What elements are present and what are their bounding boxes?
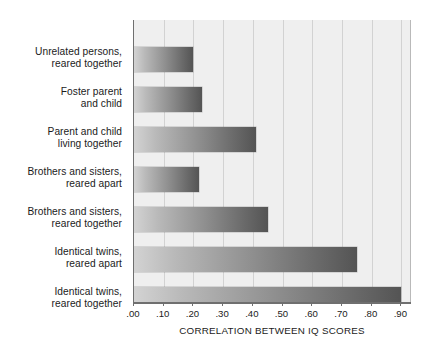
plot-right-edge xyxy=(410,20,411,302)
category-axis-labels: Unrelated persons, reared together Foste… xyxy=(0,20,128,302)
category-label-foster-parent-and-child: Foster parent and child xyxy=(0,86,122,111)
x-tick-label-0.00: .00 xyxy=(118,308,148,319)
x-tick-0.20 xyxy=(192,302,193,306)
category-label-line1: Brothers and sisters, xyxy=(28,206,122,217)
bar-identical-twins-reared-apart xyxy=(134,247,357,272)
x-tick-0.40 xyxy=(252,302,253,306)
category-label-identical-twins-reared-apart: Identical twins, reared apart xyxy=(0,246,122,271)
category-label-identical-twins-reared-together: Identical twins, reared together xyxy=(0,286,122,311)
x-tick-0.30 xyxy=(222,302,223,306)
category-label-line2: reared together xyxy=(0,298,122,310)
x-tick-label-0.20: .20 xyxy=(177,308,207,319)
x-tick-0.80 xyxy=(371,302,372,306)
x-tick-label-0.80: .80 xyxy=(356,308,386,319)
category-label-line1: Brothers and sisters, xyxy=(28,166,122,177)
x-tick-label-0.30: .30 xyxy=(207,308,237,319)
category-label-line1: Unrelated persons, xyxy=(35,46,122,57)
category-label-brothers-and-sisters-reared-together: Brothers and sisters, reared together xyxy=(0,206,122,231)
category-label-line1: Identical twins, xyxy=(54,286,122,297)
plot-inner xyxy=(134,20,411,302)
x-tick-0.00 xyxy=(133,302,134,306)
x-axis-line xyxy=(133,302,411,304)
x-tick-label-0.90: .90 xyxy=(385,308,415,319)
category-label-line1: Parent and child xyxy=(48,126,122,137)
bar-brothers-and-sisters-reared-apart xyxy=(134,167,199,192)
x-tick-label-0.40: .40 xyxy=(237,308,267,319)
category-label-line1: Foster parent xyxy=(61,86,122,97)
gridline-0.90 xyxy=(401,20,402,302)
category-label-line2: reared apart xyxy=(0,258,122,270)
category-label-unrelated-persons-reared-together: Unrelated persons, reared together xyxy=(0,46,122,71)
bar-brothers-and-sisters-reared-together xyxy=(134,207,268,232)
x-tick-label-0.60: .60 xyxy=(296,308,326,319)
category-label-line2: living together xyxy=(0,138,122,150)
iq-correlation-bar-chart: Unrelated persons, reared together Foste… xyxy=(0,0,430,355)
x-tick-label-0.10: .10 xyxy=(148,308,178,319)
x-tick-0.50 xyxy=(282,302,283,306)
category-label-line2: reared apart xyxy=(0,178,122,190)
x-tick-0.60 xyxy=(311,302,312,306)
bar-parent-and-child-living-together xyxy=(134,127,256,152)
bar-unrelated-persons-reared-together xyxy=(134,47,193,72)
x-tick-label-0.50: .50 xyxy=(267,308,297,319)
bar-identical-twins-reared-together xyxy=(134,287,401,302)
bar-foster-parent-and-child xyxy=(134,87,202,112)
category-label-parent-and-child-living-together: Parent and child living together xyxy=(0,126,122,151)
category-label-line2: and child xyxy=(0,98,122,110)
x-tick-0.70 xyxy=(341,302,342,306)
gridline-0.80 xyxy=(372,20,373,302)
plot-area xyxy=(133,20,411,302)
category-label-line2: reared together xyxy=(0,58,122,70)
category-label-brothers-and-sisters-reared-apart: Brothers and sisters, reared apart xyxy=(0,166,122,191)
category-label-line1: Identical twins, xyxy=(54,246,122,257)
x-axis-title: CORRELATION BETWEEN IQ SCORES xyxy=(133,325,411,336)
x-tick-0.90 xyxy=(400,302,401,306)
x-tick-label-0.70: .70 xyxy=(326,308,356,319)
category-label-line2: reared together xyxy=(0,218,122,230)
x-tick-0.10 xyxy=(163,302,164,306)
